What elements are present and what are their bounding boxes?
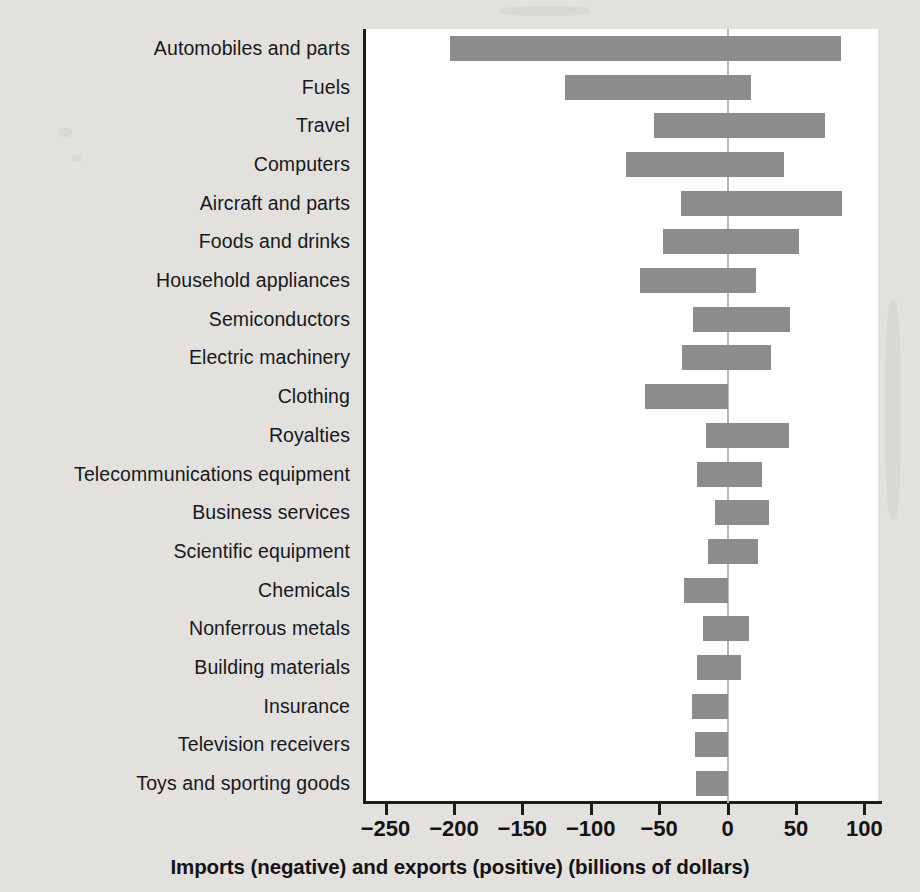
y-axis-tick-label: Television receivers xyxy=(10,733,350,756)
y-axis-tick-label: Electric machinery xyxy=(10,346,350,369)
x-axis-tick xyxy=(385,804,388,815)
y-axis-tick-label: Foods and drinks xyxy=(10,230,350,253)
y-axis-tick-label: Household appliances xyxy=(10,269,350,292)
bar xyxy=(682,345,771,370)
category-row: Insurance xyxy=(0,687,920,726)
category-row: Semiconductors xyxy=(0,300,920,339)
y-axis-tick-label: Semiconductors xyxy=(10,308,350,331)
y-axis-tick-label: Aircraft and parts xyxy=(10,192,350,215)
x-axis-title: Imports (negative) and exports (positive… xyxy=(0,855,920,879)
x-axis-tick xyxy=(795,804,798,815)
bar xyxy=(640,268,756,293)
category-row: Travel xyxy=(0,106,920,145)
bar xyxy=(697,462,761,487)
category-row: Chemicals xyxy=(0,571,920,610)
category-row: Toys and sporting goods xyxy=(0,764,920,803)
x-axis-tick xyxy=(658,804,661,815)
y-axis-tick-label: Business services xyxy=(10,501,350,524)
y-axis-tick-label: Automobiles and parts xyxy=(10,37,350,60)
category-row: Business services xyxy=(0,493,920,532)
x-axis-tick xyxy=(453,804,456,815)
y-axis-tick-label: Telecommunications equipment xyxy=(10,463,350,486)
bar xyxy=(565,75,751,100)
category-row: Aircraft and parts xyxy=(0,184,920,223)
y-axis-tick-label: Travel xyxy=(10,114,350,137)
bar xyxy=(696,771,727,796)
category-row: Clothing xyxy=(0,377,920,416)
y-axis-tick-label: Building materials xyxy=(10,656,350,679)
bar xyxy=(697,655,741,680)
bar xyxy=(654,113,825,138)
category-row: Scientific equipment xyxy=(0,532,920,571)
bar xyxy=(663,229,798,254)
bar xyxy=(703,616,750,641)
category-row: Fuels xyxy=(0,68,920,107)
bar xyxy=(715,500,768,525)
x-axis-tick xyxy=(863,804,866,815)
bar xyxy=(692,694,728,719)
y-axis-tick-label: Insurance xyxy=(10,695,350,718)
y-axis-tick-label: Fuels xyxy=(10,76,350,99)
category-row: Automobiles and parts xyxy=(0,29,920,68)
y-axis-tick-label: Royalties xyxy=(10,424,350,447)
bar xyxy=(645,384,727,409)
category-row: Telecommunications equipment xyxy=(0,455,920,494)
bar xyxy=(684,578,728,603)
category-row: Computers xyxy=(0,145,920,184)
y-axis-tick-label: Toys and sporting goods xyxy=(10,772,350,795)
category-row: Nonferrous metals xyxy=(0,610,920,649)
x-axis-tick xyxy=(590,804,593,815)
category-row: Foods and drinks xyxy=(0,223,920,262)
category-row: Electric machinery xyxy=(0,339,920,378)
category-row: Television receivers xyxy=(0,726,920,765)
x-axis-tick xyxy=(727,804,730,815)
bar xyxy=(681,191,842,216)
x-axis-tick-label: 100 xyxy=(824,816,904,842)
y-axis-tick-label: Clothing xyxy=(10,385,350,408)
bar xyxy=(708,539,757,564)
bar xyxy=(626,152,783,177)
category-row: Household appliances xyxy=(0,261,920,300)
bar xyxy=(706,423,789,448)
category-row: Building materials xyxy=(0,648,920,687)
bar-chart-figure: Automobiles and partsFuelsTravelComputer… xyxy=(0,0,920,892)
y-axis-tick-label: Scientific equipment xyxy=(10,540,350,563)
y-axis-tick-label: Computers xyxy=(10,153,350,176)
bar xyxy=(695,732,728,757)
bar xyxy=(450,36,841,61)
y-axis-tick-label: Nonferrous metals xyxy=(10,617,350,640)
bar xyxy=(693,307,790,332)
category-row: Royalties xyxy=(0,416,920,455)
x-axis-tick xyxy=(521,804,524,815)
y-axis-tick-label: Chemicals xyxy=(10,579,350,602)
